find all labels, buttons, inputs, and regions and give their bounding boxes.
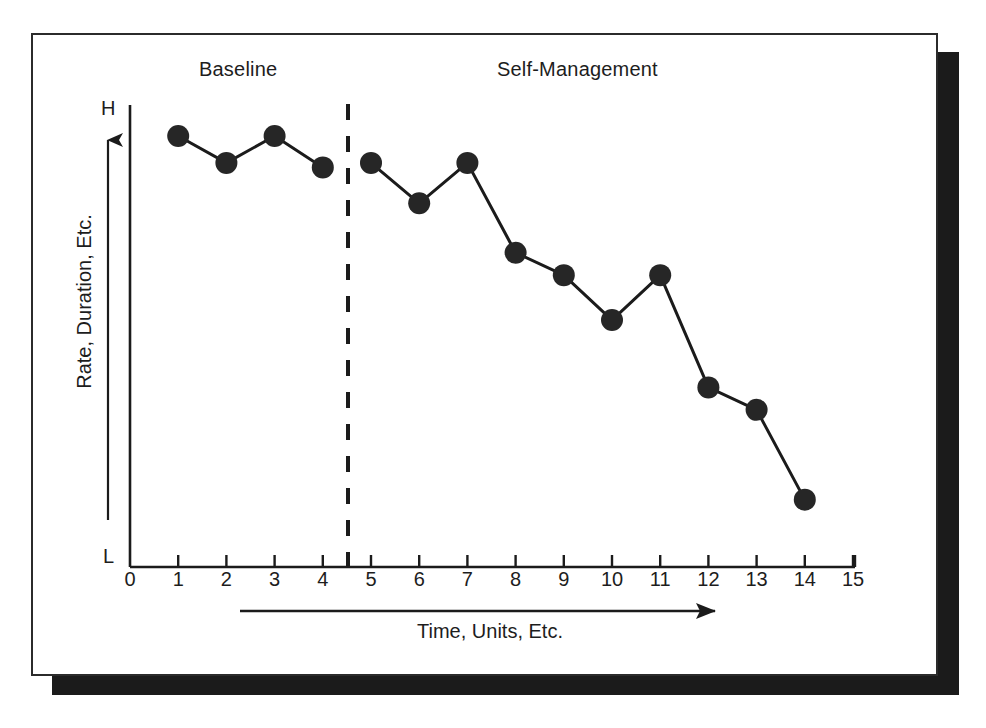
- x-axis-tick-label: 0: [110, 568, 150, 591]
- x-axis-tick-label: 7: [447, 568, 487, 591]
- x-axis-tick-label: 14: [785, 568, 825, 591]
- x-axis-tick-label: 15: [833, 568, 873, 591]
- x-axis-tick-label: 6: [399, 568, 439, 591]
- y-axis-high-cap: H: [101, 97, 115, 120]
- x-axis-tick-label: 4: [303, 568, 343, 591]
- y-axis-label: Rate, Duration, Etc.: [73, 187, 96, 417]
- figure-shadow-bottom: [52, 676, 959, 695]
- x-axis-label: Time, Units, Etc.: [340, 620, 640, 643]
- x-axis-tick-label: 11: [640, 568, 680, 591]
- y-axis-low-cap: L: [103, 545, 114, 568]
- phase-label-baseline: Baseline: [199, 58, 277, 81]
- x-axis-tick-label: 5: [351, 568, 391, 591]
- x-axis-tick-label: 13: [737, 568, 777, 591]
- x-axis-tick-label: 3: [255, 568, 295, 591]
- phase-label-self-management: Self-Management: [497, 58, 658, 81]
- x-axis-tick-label: 12: [688, 568, 728, 591]
- x-axis-tick-label: 2: [206, 568, 246, 591]
- x-axis-tick-label: 9: [544, 568, 584, 591]
- x-axis-tick-label: 10: [592, 568, 632, 591]
- x-axis-tick-label: 1: [158, 568, 198, 591]
- figure-shadow-right: [938, 52, 959, 695]
- x-axis-tick-label: 8: [496, 568, 536, 591]
- figure-canvas: Baseline Self-Management H L Rate, Durat…: [0, 0, 986, 728]
